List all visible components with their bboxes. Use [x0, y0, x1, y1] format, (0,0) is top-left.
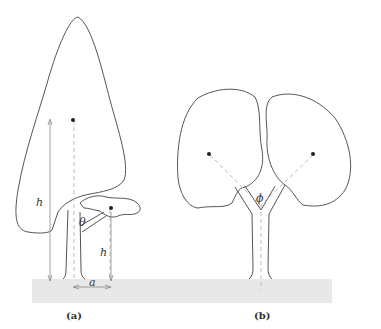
left-crown: [178, 89, 263, 208]
center-right: [311, 152, 315, 156]
label-theta: θ: [79, 216, 86, 229]
label-a: a: [89, 276, 96, 289]
caption-a: (a): [66, 310, 82, 321]
figure: h θ h a ϕ (a) (b): [0, 0, 381, 329]
right-crown: [266, 94, 351, 206]
caption-b: (b): [254, 310, 270, 321]
center-of-mass-short: [109, 206, 113, 210]
tree-diagram: [0, 0, 381, 329]
ground: [32, 279, 332, 303]
label-h-short: h: [100, 246, 107, 259]
center-of-mass-tall: [71, 118, 75, 122]
center-left: [207, 152, 211, 156]
label-phi: ϕ: [256, 192, 264, 205]
tall-tree-crown: [16, 17, 126, 233]
label-h-tall: h: [36, 196, 43, 209]
